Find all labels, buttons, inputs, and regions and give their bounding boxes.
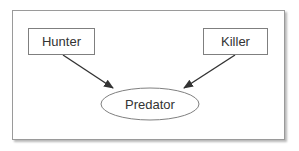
node-predator-label: Predator xyxy=(125,97,175,112)
node-hunter: Hunter xyxy=(28,28,95,55)
diagram-canvas xyxy=(0,0,299,151)
edge-hunter-to-predator xyxy=(63,55,113,88)
node-hunter-label: Hunter xyxy=(42,34,81,49)
edge-killer-to-predator xyxy=(184,55,235,88)
node-killer-label: Killer xyxy=(221,34,250,49)
node-predator: Predator xyxy=(101,88,199,120)
node-killer: Killer xyxy=(203,28,268,55)
